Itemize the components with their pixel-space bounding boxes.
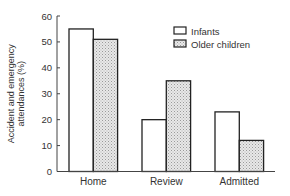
legend-swatch [174, 40, 186, 47]
bar-chart: Accident and emergencyattendances (%) 01… [0, 0, 290, 196]
x-tick-label: Admitted [220, 176, 259, 187]
y-tick-label: 0 [47, 166, 52, 177]
bars [69, 29, 264, 172]
legend-label: Older children [191, 39, 250, 50]
bar-infants-home [69, 29, 93, 172]
bar-older-children-admitted [239, 140, 263, 171]
legend-label: Infants [191, 26, 220, 37]
bar-infants-admitted [215, 112, 239, 172]
y-tick-label: 30 [41, 88, 52, 99]
bar-older-children-review [166, 81, 190, 172]
y-axis-label-line: attendances (%) [16, 61, 26, 127]
legend: InfantsOlder children [174, 26, 250, 50]
y-tick-label: 10 [41, 140, 52, 151]
bar-infants-review [142, 120, 166, 172]
y-axis-label: Accident and emergencyattendances (%) [6, 44, 26, 144]
x-axis: HomeReviewAdmitted [57, 172, 275, 188]
y-axis: 0102030405060 [41, 11, 60, 178]
y-tick-label: 60 [41, 11, 52, 22]
y-tick-label: 50 [41, 36, 52, 47]
legend-swatch [174, 27, 186, 34]
bar-older-children-home [93, 39, 117, 171]
y-tick-label: 20 [41, 114, 52, 125]
y-tick-label: 40 [41, 62, 52, 73]
x-tick-label: Home [80, 176, 107, 187]
y-axis-label-line: Accident and emergency [6, 44, 16, 144]
x-tick-label: Review [150, 176, 184, 187]
